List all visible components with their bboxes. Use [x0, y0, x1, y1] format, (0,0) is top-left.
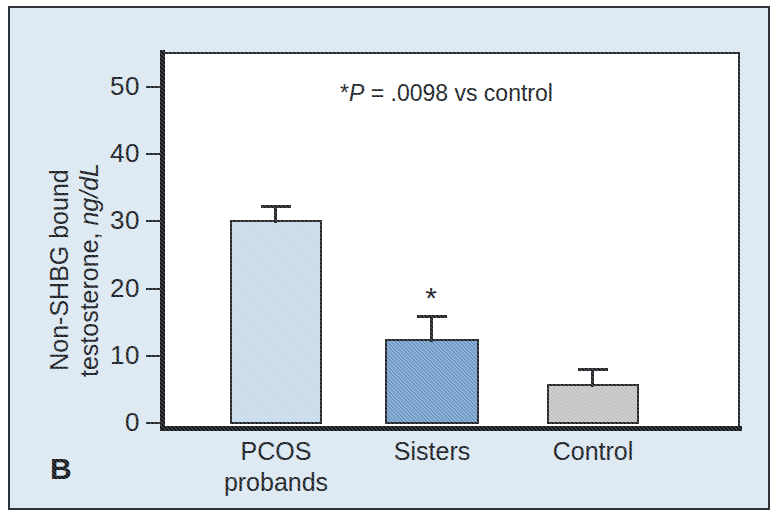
y-tick-label-50: 50 [68, 71, 140, 102]
bar-sisters [385, 339, 479, 424]
annotation-asterisk: * [340, 80, 349, 106]
x-label-pcos-probands-line1: PCOS [241, 437, 312, 465]
y-axis-line [160, 50, 165, 430]
y-axis-title-line2: testosterone, ng/dL [74, 120, 104, 420]
y-axis-title-line2-text: testosterone, [75, 226, 103, 377]
p-value-annotation: *P = .0098 vs control [340, 80, 553, 107]
x-label-control: Control [553, 436, 634, 467]
y-tick-30 [146, 220, 162, 222]
annotation-text: = .0098 vs control [364, 80, 553, 106]
y-tick-10 [146, 355, 162, 357]
x-label-sisters: Sisters [394, 436, 470, 467]
y-axis-title-line1: Non-SHBG bound [44, 120, 74, 420]
bar-pcos-probands [230, 220, 322, 424]
x-axis-line [160, 426, 742, 431]
bar-control [547, 384, 639, 424]
y-tick-50 [146, 86, 162, 88]
figure-plate: 50 40 30 20 10 0 Non-SHBG bound testoste… [8, 6, 770, 510]
x-label-pcos-probands-line2: probands [224, 468, 328, 496]
error-bar-cap-control [578, 368, 608, 371]
y-tick-40 [146, 153, 162, 155]
x-label-control-line1: Control [553, 437, 634, 465]
y-axis-title-unit: ng/dL [75, 163, 103, 226]
error-bar-line-sisters [430, 315, 433, 342]
significance-marker-sisters: * [425, 283, 437, 313]
figure-panel-b: 50 40 30 20 10 0 Non-SHBG bound testoste… [0, 0, 778, 520]
y-tick-20 [146, 288, 162, 290]
y-tick-0 [146, 422, 162, 424]
y-axis-title: Non-SHBG bound testosterone, ng/dL [44, 120, 104, 420]
x-label-sisters-line1: Sisters [394, 437, 470, 465]
panel-letter: B [50, 452, 72, 486]
x-label-pcos-probands: PCOS probands [224, 436, 328, 498]
error-bar-cap-sisters [417, 315, 447, 318]
annotation-p-symbol: P [349, 80, 364, 106]
error-bar-cap-pcos-probands [261, 205, 291, 208]
